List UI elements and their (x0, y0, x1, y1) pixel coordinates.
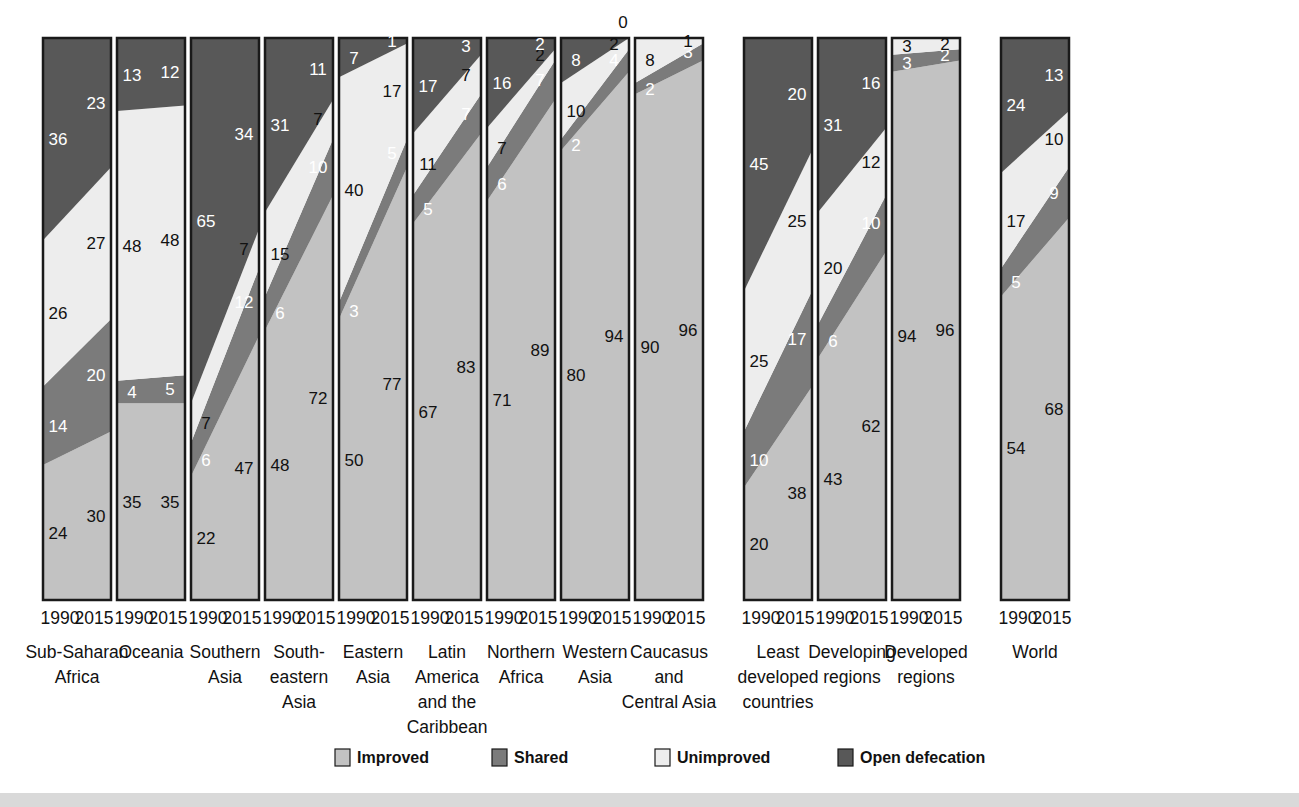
data-value-label: 2 (609, 35, 618, 54)
data-value-label: 43 (824, 470, 843, 489)
data-value-label: 23 (87, 94, 106, 113)
data-value-label: 38 (788, 484, 807, 503)
top-note-label: 0 (618, 13, 627, 32)
data-value-label: 7 (535, 71, 544, 90)
data-value-label: 5 (423, 200, 432, 219)
data-value-label: 3 (461, 37, 470, 56)
data-value-label: 96 (936, 321, 955, 340)
chart-group-panel: 43626102012311619902015Developingregions (808, 38, 896, 687)
data-value-label: 96 (679, 321, 698, 340)
data-value-label: 25 (788, 212, 807, 231)
category-label: Sub-Saharan (25, 642, 128, 662)
data-value-label: 62 (862, 417, 881, 436)
data-value-label: 12 (862, 153, 881, 172)
data-value-label: 14 (49, 417, 68, 436)
category-label: World (1012, 642, 1057, 662)
category-label: eastern (270, 667, 328, 687)
category-label: Developing (808, 642, 896, 662)
data-value-label: 10 (309, 158, 328, 177)
data-value-label: 9 (1049, 184, 1058, 203)
x-tick-label: 2015 (924, 608, 963, 628)
chart-group-panel: 67835711717319902015LatinAmericaand theC… (407, 37, 488, 737)
chart-group-panel: 224761277653419902015SouthernAsia (189, 38, 262, 687)
chart-group-panel: 5468591710241319902015World (999, 38, 1072, 662)
x-tick-label: 2015 (149, 608, 188, 628)
legend-swatch (655, 749, 670, 766)
chart-group-panel: 8094241028019902015WesternAsia (559, 13, 632, 687)
data-value-label: 3 (902, 37, 911, 56)
category-label: Northern (487, 642, 555, 662)
category-label: Developed (884, 642, 968, 662)
category-label: regions (897, 667, 955, 687)
data-value-label: 67 (419, 403, 438, 422)
data-value-label: 36 (49, 130, 68, 149)
data-value-label: 2 (645, 80, 654, 99)
category-label: Western (563, 642, 628, 662)
data-value-label: 17 (383, 82, 402, 101)
data-value-label: 2 (535, 35, 544, 54)
data-value-label: 7 (349, 49, 358, 68)
data-value-label: 12 (235, 293, 254, 312)
data-value-label: 30 (87, 507, 106, 526)
data-value-label: 17 (419, 77, 438, 96)
data-value-label: 12 (161, 63, 180, 82)
data-value-label: 1 (387, 32, 396, 51)
data-value-label: 90 (641, 338, 660, 357)
chart-canvas: 243014202627362319902015Sub-SaharanAfric… (0, 0, 1299, 807)
chart-legend: ImprovedSharedUnimprovedOpen defecation (335, 749, 985, 766)
data-value-label: 83 (457, 358, 476, 377)
data-value-label: 20 (824, 259, 843, 278)
legend-label: Unimproved (677, 749, 770, 766)
data-value-label: 16 (862, 74, 881, 93)
data-value-label: 4 (127, 383, 136, 402)
data-value-label: 16 (493, 74, 512, 93)
category-label: Caucasus (630, 642, 708, 662)
category-label: countries (742, 692, 813, 712)
chart-group-panel: 3535454848131219902015Oceania (115, 38, 188, 662)
data-value-label: 13 (123, 66, 142, 85)
data-value-label: 8 (571, 51, 580, 70)
category-label: regions (823, 667, 881, 687)
legend-label: Shared (514, 749, 568, 766)
category-label: Asia (578, 667, 612, 687)
data-value-label: 6 (201, 451, 210, 470)
data-value-label: 25 (750, 352, 769, 371)
chart-group-panel: 7189677216219902015NorthernAfrica (485, 35, 558, 687)
footer-bar (0, 793, 1299, 807)
data-value-label: 7 (313, 110, 322, 129)
data-value-label: 31 (824, 116, 843, 135)
chart-group-panel: 4872610157311119902015South-easternAsia (263, 38, 336, 712)
data-value-label: 13 (1045, 66, 1064, 85)
data-value-label: 5 (1011, 273, 1020, 292)
chart-group-panel: 9496323219902015Developedregions (884, 35, 968, 687)
data-value-label: 80 (567, 366, 586, 385)
category-label: Eastern (343, 642, 403, 662)
data-value-label: 17 (788, 330, 807, 349)
data-value-label: 2 (571, 136, 580, 155)
x-tick-label: 2015 (850, 608, 889, 628)
data-value-label: 11 (419, 155, 437, 174)
data-value-label: 7 (461, 105, 470, 124)
data-value-label: 15 (271, 245, 290, 264)
data-value-label: 2 (940, 35, 949, 54)
x-tick-label: 2015 (445, 608, 484, 628)
data-value-label: 31 (271, 116, 290, 135)
x-tick-label: 2015 (371, 608, 410, 628)
category-label: Africa (55, 667, 100, 687)
category-label: Africa (499, 667, 544, 687)
category-label: developed (738, 667, 819, 687)
data-value-label: 3 (902, 54, 911, 73)
data-value-label: 7 (461, 66, 470, 85)
data-value-label: 20 (788, 85, 807, 104)
legend-label: Improved (357, 749, 429, 766)
data-value-label: 17 (1007, 212, 1026, 231)
data-value-label: 20 (750, 535, 769, 554)
data-value-label: 26 (49, 304, 68, 323)
data-value-label: 45 (750, 155, 769, 174)
category-label: South- (273, 642, 325, 662)
data-value-label: 54 (1007, 439, 1026, 458)
data-value-label: 5 (387, 144, 396, 163)
data-value-label: 22 (197, 529, 216, 548)
data-value-label: 6 (828, 332, 837, 351)
sanitation-stacked-area-chart: 243014202627362319902015Sub-SaharanAfric… (0, 0, 1299, 807)
